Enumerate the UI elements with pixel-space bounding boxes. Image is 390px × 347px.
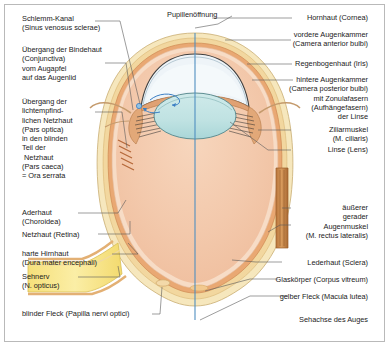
label-ora-serrata: Übergang derlichtempfind-lichen Netzhaut… [22, 97, 73, 181]
label-conjunctiva-transition: Übergang der Bindehaut(Conjunctiva)vom A… [22, 45, 102, 82]
label-anterior-chamber: vordere Augenkammer(Camera anterior bulb… [188, 30, 368, 49]
optic-disc-blind-spot [156, 280, 170, 286]
label-iris: Regenbogenhaut (Iris) [188, 59, 368, 68]
macula-lutea-spot [190, 285, 208, 291]
label-macula-lutea: gelber Fleck (Macula lutea) [188, 292, 368, 301]
label-vitreous-body: Glaskörper (Corpus vitreum) [188, 275, 368, 284]
label-dura-mater: harte Hirnhaut(Dura mater encephali) [22, 249, 97, 268]
label-choroid: Aderhaut(Choroidea) [22, 208, 61, 227]
label-schlemms-canal: Schlemm-Kanal(Sinus venosus sclerae) [22, 14, 100, 33]
label-cornea: Hornhaut (Cornea) [188, 13, 368, 22]
schlemms-canal-marker [136, 103, 141, 108]
macula-group [190, 285, 208, 291]
label-posterior-chamber: hintere Augenkammer(Camera posterior bul… [178, 75, 368, 121]
label-retina: Netzhaut (Retina) [22, 230, 79, 239]
label-sclera: Lederhaut (Sclera) [208, 258, 368, 267]
label-lens: Linse (Lens) [218, 145, 368, 154]
eye-anatomy-figure: Pupillenöffnung Schlemm-Kanal(Sinus veno… [0, 0, 390, 347]
label-visual-axis: Sehachse des Auges [188, 315, 368, 324]
label-lateral-rectus-muscle: äußerergeraderAugenmuskel(M. rectus late… [218, 203, 368, 240]
label-blind-spot: blinder Fleck (Papilla nervi optici) [22, 309, 129, 318]
label-optic-nerve: Sehnerv(N. opticus) [22, 272, 59, 291]
label-ciliary-muscle: Ziliarmuskel(M. ciliaris) [218, 125, 368, 144]
